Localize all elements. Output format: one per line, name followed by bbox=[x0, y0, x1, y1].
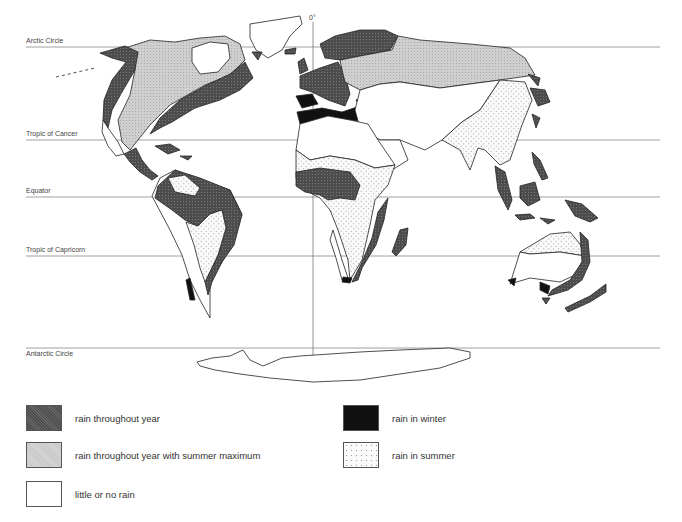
australia-sw-winter bbox=[508, 278, 516, 286]
legend-item-rain-throughout-year-summer-max: rain throughout year with summer maximum bbox=[26, 442, 260, 468]
tasmania bbox=[542, 298, 550, 304]
arctic-circle-label: Arctic Circle bbox=[26, 37, 63, 44]
legend-item-rain-throughout-year: rain throughout year bbox=[26, 405, 160, 431]
prime-meridian-label: 0° bbox=[309, 14, 316, 21]
caribbean bbox=[155, 144, 192, 160]
legend-item-little-or-no-rain: little or no rain bbox=[26, 481, 135, 507]
legend-label: rain throughout year bbox=[75, 413, 160, 424]
east-asia-dark-islands bbox=[530, 88, 550, 128]
uk bbox=[298, 58, 308, 74]
antarctica bbox=[197, 348, 470, 382]
swatch-rain-in-summer bbox=[343, 442, 379, 468]
iberia-winter bbox=[296, 94, 318, 108]
greenland-south-dark bbox=[252, 52, 262, 60]
swatch-rain-throughout-year bbox=[26, 405, 62, 431]
legend-label: rain throughout year with summer maximum bbox=[75, 450, 260, 461]
antarctic-circle-label: Antarctic Circle bbox=[26, 350, 73, 357]
legend-item-rain-in-winter: rain in winter bbox=[343, 405, 446, 431]
kamchatka-dark bbox=[528, 74, 540, 86]
southeast-asia-dark bbox=[495, 166, 512, 210]
swatch-rain-throughout-year-summer-max bbox=[26, 442, 62, 468]
borneo bbox=[520, 182, 540, 206]
alaska-islands bbox=[56, 68, 95, 77]
legend-label: little or no rain bbox=[75, 489, 135, 500]
legend-item-rain-in-summer: rain in summer bbox=[343, 442, 455, 468]
swatch-little-or-no-rain bbox=[26, 481, 62, 507]
africa-west-dark bbox=[296, 168, 360, 200]
equator-label: Equator bbox=[26, 187, 51, 194]
new-guinea bbox=[565, 200, 598, 222]
cape-winter bbox=[342, 277, 352, 283]
iceland bbox=[285, 48, 296, 54]
world-rainfall-map bbox=[0, 0, 682, 390]
tropic-of-capricorn-label: Tropic of Capricorn bbox=[26, 246, 85, 253]
philippines bbox=[532, 152, 548, 180]
legend-label: rain in summer bbox=[392, 450, 455, 461]
central-america bbox=[124, 148, 158, 180]
tropic-of-cancer-label: Tropic of Cancer bbox=[26, 130, 77, 137]
legend-label: rain in winter bbox=[392, 413, 446, 424]
australia-se-winter bbox=[540, 282, 550, 294]
madagascar bbox=[392, 228, 408, 256]
sumatra-islands bbox=[515, 214, 555, 224]
swatch-rain-in-winter bbox=[343, 405, 379, 431]
